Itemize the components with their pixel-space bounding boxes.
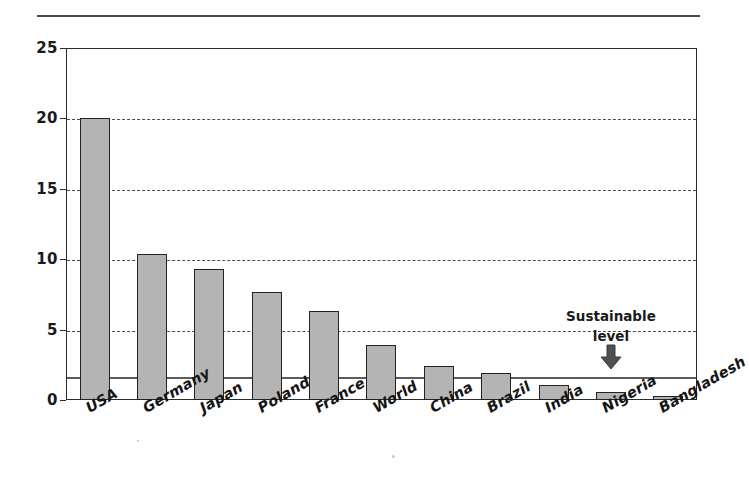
y-axis-tick-label: 25 [36,39,58,57]
sustainable-level-annotation: Sustainable level [546,307,676,346]
y-axis-tick-label: 20 [36,109,58,127]
bar-slot [640,48,697,400]
bar-slot [295,48,352,400]
x-axis-labels: USAGermanyJapanPolandFranceWorldChinaBra… [66,402,697,494]
bar-slot [410,48,467,400]
bar [252,292,282,400]
y-axis-tick-mark [60,259,66,260]
bar-slot [66,48,123,400]
bar-slot [181,48,238,400]
bar [137,254,167,400]
y-axis-tick-mark [60,330,66,331]
bar [309,311,339,400]
y-axis-tick-mark [60,400,66,401]
y-axis-tick-mark [60,189,66,190]
bar-slot [123,48,180,400]
scan-speck [137,440,139,442]
bar-slot [353,48,410,400]
y-axis-labels: 0510152025 [0,48,58,400]
down-arrow-icon [598,344,624,370]
bar-slot [238,48,295,400]
bar-slot [525,48,582,400]
y-axis-tick-mark [60,48,66,49]
top-horizontal-rule [37,15,700,17]
sustainable-label-line1: Sustainable [546,307,676,327]
bar-slot [468,48,525,400]
y-axis-tick-label: 10 [36,250,58,268]
scan-speck [392,455,395,458]
y-axis-tick-label: 15 [36,180,58,198]
y-axis-tick-label: 5 [47,321,58,339]
y-axis-tick-mark [60,118,66,119]
y-axis-tick-label: 0 [47,391,58,409]
bar [80,118,110,400]
